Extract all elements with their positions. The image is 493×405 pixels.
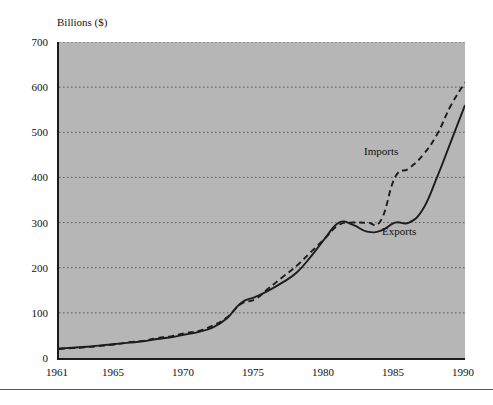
x-tick-label: 1975	[242, 366, 264, 378]
x-tick-label: 1980	[312, 366, 334, 378]
x-axis-tick-labels: 1961196519701975198019851990	[0, 0, 493, 405]
figure-bottom-rule	[0, 389, 493, 390]
series-label-imports: Imports	[364, 145, 398, 157]
series-label-exports: Exports	[382, 225, 416, 237]
x-tick-label: 1985	[382, 366, 404, 378]
x-tick-label: 1990	[452, 366, 474, 378]
chart-figure: Billions ($) 0100200300400500600700 1961…	[0, 0, 493, 405]
x-tick-label: 1970	[172, 366, 194, 378]
x-tick-label: 1965	[102, 366, 124, 378]
x-tick-label: 1961	[46, 366, 68, 378]
